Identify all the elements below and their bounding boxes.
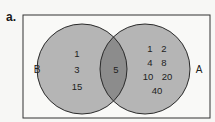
a-only-value: 40	[152, 85, 163, 96]
b-only-value: 3	[74, 64, 79, 75]
venn-diagram: B A 1 3 15 5 1 2 4 8 10 20 40	[0, 0, 215, 122]
a-only-value: 20	[162, 71, 173, 82]
a-only-value: 10	[143, 71, 154, 82]
set-b-label: B	[34, 64, 41, 75]
a-only-value: 4	[147, 57, 152, 68]
a-only-value: 8	[161, 57, 166, 68]
a-only-value: 2	[161, 43, 166, 54]
intersection-value: 5	[113, 64, 118, 75]
b-only-value: 1	[74, 48, 79, 59]
set-a-label: A	[196, 64, 203, 75]
b-only-value: 15	[72, 81, 83, 92]
a-only-value: 1	[147, 43, 152, 54]
